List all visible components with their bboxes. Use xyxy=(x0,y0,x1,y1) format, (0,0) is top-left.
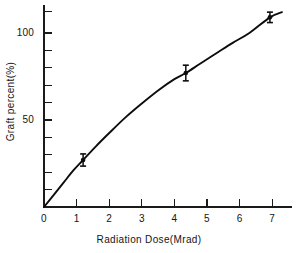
x-tick-label-1: 1 xyxy=(67,213,87,224)
x-tick-label-3: 3 xyxy=(132,213,152,224)
x-tick-marks xyxy=(77,199,273,207)
data-point-3 xyxy=(268,15,273,20)
x-tick-label-7: 7 xyxy=(262,213,282,224)
x-tick-label-6: 6 xyxy=(230,213,250,224)
data-point-1 xyxy=(81,158,86,163)
y-tick-label-100: 100 xyxy=(8,27,34,38)
data-points-group xyxy=(80,12,273,166)
data-curve xyxy=(44,12,282,207)
axes-group xyxy=(44,5,292,208)
chart-figure: 100 50 0 1 2 3 4 5 6 7 Radiation Dose(Mr… xyxy=(0,0,298,253)
x-tick-label-5: 5 xyxy=(197,213,217,224)
y-axis-title: Graft percent(%) xyxy=(5,42,16,162)
x-tick-label-2: 2 xyxy=(99,213,119,224)
y-tick-marks xyxy=(44,12,52,190)
x-axis-title: Radiation Dose(Mrad) xyxy=(0,234,298,245)
x-tick-label-4: 4 xyxy=(164,213,184,224)
data-point-2 xyxy=(184,71,189,76)
x-tick-label-0: 0 xyxy=(34,213,54,224)
